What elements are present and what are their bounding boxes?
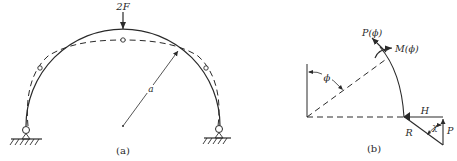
angled-dashed-line — [307, 60, 385, 117]
right-pin-support-icon — [203, 126, 231, 145]
hinge-left-icon — [38, 66, 42, 70]
moment-label: M(ϕ) — [394, 43, 419, 54]
horizontal-reaction-label: H — [420, 105, 430, 116]
left-pin-support-icon — [10, 127, 42, 146]
diagram-canvas: 2F a — [0, 0, 457, 161]
axial-force-label: P(ϕ) — [361, 27, 383, 38]
panel-b: ϕ P(ϕ) M(ϕ) H P R χ (b) — [307, 27, 454, 154]
arch-segment-curve — [380, 47, 404, 117]
center-point-icon — [122, 125, 124, 127]
phi-label: ϕ — [324, 72, 331, 83]
moment-arrow-icon — [375, 48, 392, 58]
hinge-right-icon — [204, 66, 208, 70]
panel-b-caption: (b) — [367, 143, 381, 154]
panel-a: 2F a — [10, 1, 231, 156]
radius-label: a — [148, 84, 153, 94]
vertical-reaction-label: P — [446, 125, 454, 136]
resultant-label: R — [404, 127, 412, 138]
hinge-top-icon — [121, 38, 125, 42]
arch-curve — [26, 29, 220, 126]
deformed-shape-curve — [27, 40, 219, 126]
chi-label: χ — [431, 122, 438, 132]
panel-a-caption: (a) — [116, 145, 130, 156]
load-label: 2F — [115, 1, 130, 12]
